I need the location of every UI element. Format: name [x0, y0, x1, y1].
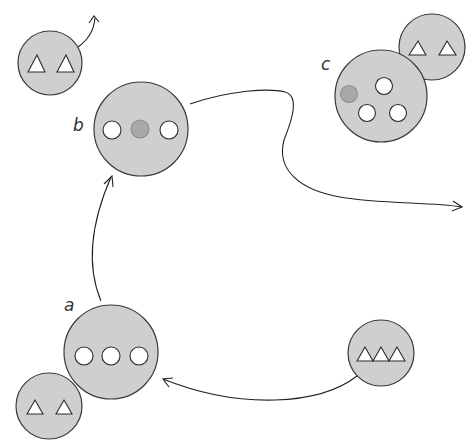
- state-b-cell: [94, 82, 188, 176]
- label-b: b: [73, 115, 84, 135]
- arrow-a-to-b: [92, 177, 111, 301]
- label-c: c: [321, 54, 330, 74]
- state-c-complex: [335, 14, 465, 142]
- label-a: a: [64, 295, 74, 315]
- empty-site: [102, 347, 120, 365]
- empty-site: [130, 347, 148, 365]
- three-triangle-cell: [348, 320, 414, 386]
- exit-arrow-top: [78, 18, 95, 47]
- empty-site: [75, 347, 93, 365]
- empty-site: [103, 121, 121, 139]
- empty-site: [376, 78, 393, 95]
- filled-site: [341, 86, 358, 103]
- cycle-diagram: [0, 0, 474, 444]
- free-triangle-cell: [18, 31, 82, 95]
- filled-site: [131, 120, 149, 138]
- arrow-three-to-a: [163, 376, 357, 400]
- empty-site: [390, 105, 407, 122]
- empty-site: [359, 105, 376, 122]
- state-a-complex: [16, 305, 158, 439]
- empty-site: [160, 121, 178, 139]
